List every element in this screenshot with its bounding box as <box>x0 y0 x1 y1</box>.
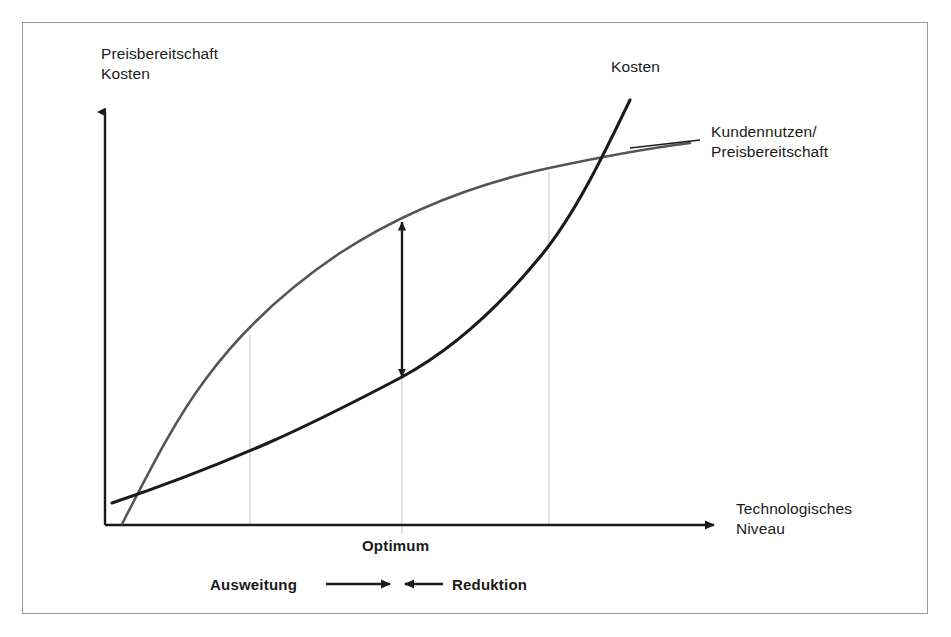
y-axis-label-line2: Kosten <box>101 65 150 82</box>
reduction-label: Reduktion <box>452 575 527 594</box>
figure-root: PreisbereitschaftKosten Kosten Kundennut… <box>0 0 951 637</box>
series-label-kosten: Kosten <box>611 57 660 77</box>
y-axis-label-line1: Preisbereitschaft <box>101 45 218 62</box>
expansion-label: Ausweitung <box>210 575 297 594</box>
x-axis-label-line2: Niveau <box>736 520 785 537</box>
optimum-label: Optimum <box>362 536 429 555</box>
x-axis-label: TechnologischesNiveau <box>736 499 852 539</box>
y-axis-label: PreisbereitschaftKosten <box>101 44 218 84</box>
x-axis-label-line1: Technologisches <box>736 500 852 517</box>
series-label-kundennutzen: Kundennutzen/PreisbereitschaftKundennutz… <box>711 122 828 162</box>
nutzen-line1: Kundennutzen/ <box>711 123 817 140</box>
nutzen-line2: Preisbereitschaft <box>711 143 828 160</box>
